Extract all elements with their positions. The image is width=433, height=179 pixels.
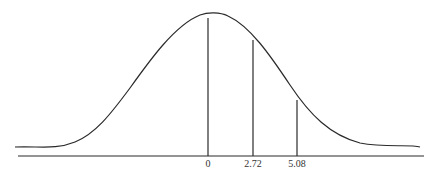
normal-curve-chart xyxy=(0,0,433,179)
tick-label-0: 0 xyxy=(206,158,211,169)
tick-label-2-72: 2.72 xyxy=(244,158,262,169)
tick-label-5-08: 5.08 xyxy=(288,158,306,169)
bell-curve xyxy=(15,13,420,147)
